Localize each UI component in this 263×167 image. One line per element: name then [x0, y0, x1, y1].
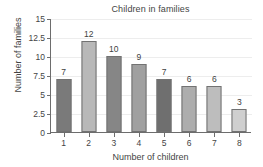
bar-slot: 7: [152, 18, 177, 132]
bar-value-label: 3: [237, 97, 242, 107]
x-axis-tick-label: 6: [187, 138, 192, 148]
x-axis-tick-mark: [89, 133, 90, 137]
x-axis-label: Number of children: [48, 152, 253, 162]
y-axis-tick-mark: [47, 133, 51, 134]
x-axis-tick-mark: [139, 133, 140, 137]
x-axis-tick-mark: [114, 133, 115, 137]
bar-slot: 9: [126, 18, 151, 132]
bar[interactable]: [182, 86, 197, 132]
bar-series: 7121097663: [51, 18, 252, 132]
bar-value-label: 9: [137, 52, 142, 62]
x-axis-tick-mark: [189, 133, 190, 137]
x-axis-tick-label: 2: [86, 138, 91, 148]
x-axis-tick-label: 5: [162, 138, 167, 148]
bar-slot: 10: [101, 18, 126, 132]
y-axis-tick-label: 7.5: [33, 71, 45, 81]
x-axis-tick-label: 1: [61, 138, 66, 148]
y-axis-tick-label: 0: [40, 128, 45, 138]
y-axis-tick-label: 5: [40, 90, 45, 100]
x-axis-tick-mark: [64, 133, 65, 137]
x-axis-tick-mark: [214, 133, 215, 137]
bar-value-label: 7: [162, 67, 167, 77]
plot-area: 02.557.51012.515 7121097663 12345678: [50, 19, 251, 133]
bar-value-label: 7: [61, 67, 66, 77]
bar[interactable]: [131, 64, 146, 132]
bar-slot: 12: [76, 18, 101, 132]
bar[interactable]: [232, 109, 247, 132]
x-axis-tick-label: 3: [111, 138, 116, 148]
chart-title: Children in families: [48, 4, 253, 14]
y-axis-tick-label: 15: [36, 14, 45, 24]
bar-value-label: 6: [212, 74, 217, 84]
x-axis-tick-mark: [239, 133, 240, 137]
bar-value-label: 10: [109, 44, 118, 54]
bar[interactable]: [207, 86, 222, 132]
bar-value-label: 6: [187, 74, 192, 84]
bar-slot: 6: [202, 18, 227, 132]
y-axis-tick-label: 12.5: [28, 33, 45, 43]
x-axis-tick-label: 4: [137, 138, 142, 148]
y-axis-tick-label: 2.5: [33, 109, 45, 119]
bar-slot: 3: [227, 18, 252, 132]
bar-chart: Children in families Number of families …: [0, 0, 263, 167]
bar-slot: 7: [51, 18, 76, 132]
x-axis-tick-mark: [164, 133, 165, 137]
bar[interactable]: [81, 41, 96, 132]
y-axis-label: Number of families: [13, 0, 23, 110]
x-axis-tick-label: 7: [212, 138, 217, 148]
bar-value-label: 12: [84, 29, 93, 39]
bar[interactable]: [56, 79, 71, 132]
bar-slot: 6: [177, 18, 202, 132]
bar[interactable]: [157, 79, 172, 132]
bar[interactable]: [106, 56, 121, 132]
x-axis-tick-label: 8: [237, 138, 242, 148]
y-axis-tick-label: 10: [36, 52, 45, 62]
